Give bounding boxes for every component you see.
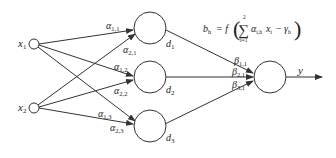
edge-x1-d1 [39, 30, 133, 44]
output-label-y: y [297, 64, 303, 76]
hidden-nodes [134, 12, 166, 142]
hidden-node-d2 [134, 61, 166, 93]
formula-lhs: bh [203, 23, 211, 35]
formula-close-paren: ) [294, 16, 301, 41]
formula-minus: − [276, 23, 282, 34]
hidden-label-d1: d1 [166, 38, 175, 51]
hidden-node-d1 [134, 12, 166, 44]
hidden-label-d2: d2 [166, 84, 175, 97]
input-nodes [29, 39, 39, 113]
weight-alpha-1-1: α1,1 [106, 20, 119, 32]
weight-alpha-1-3: α1,3 [98, 108, 111, 120]
edge-x2-d3 [39, 108, 133, 124]
formula-term-alpha: αi,h [251, 23, 262, 35]
formula-sum-upper: 2 [243, 14, 246, 20]
input-label-x2: x2 [17, 101, 27, 115]
weight-alpha-1-2: α1,2 [114, 61, 127, 73]
input-node-x1 [29, 39, 39, 49]
output-node-y [254, 61, 286, 93]
weight-beta-3-1: β3,1 [231, 79, 245, 91]
neural-network-diagram: x1 x2 d1 d2 d3 y α1,1 α2,1 α1,2 α2,2 α1,… [0, 0, 336, 158]
hidden-label-d3: d3 [166, 132, 175, 145]
input-label-x1: x1 [17, 37, 27, 51]
formula-term-gamma: γh [284, 23, 291, 35]
formula-sum-lower: i=1 [240, 37, 248, 43]
hidden-node-d3 [134, 110, 166, 142]
input-node-x2 [29, 103, 39, 113]
activation-formula: bh = f ( 2 ∑ i=1 αi,h xi − γh ) [203, 14, 301, 43]
weight-alpha-2-1: α2,1 [123, 44, 136, 56]
weight-alpha-2-3: α2,3 [110, 122, 123, 134]
input-hidden-edges [38, 30, 135, 124]
weight-alpha-2-2: α2,2 [114, 85, 127, 97]
formula-equals-f: = f [216, 23, 229, 34]
formula-term-x: xi [265, 23, 272, 35]
